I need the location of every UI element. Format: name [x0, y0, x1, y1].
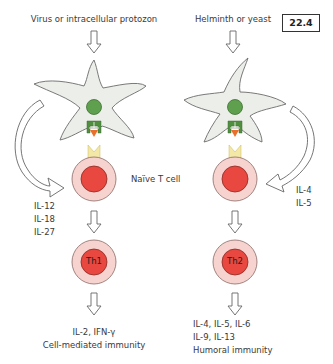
nucleus-left	[87, 100, 102, 115]
stimulus-arrow-right	[226, 31, 240, 53]
th2-immunity-type: Humoral immunity	[193, 344, 272, 356]
stimulus-arrow-left	[87, 31, 101, 53]
output-arrow-left	[87, 293, 101, 315]
nucleus-right	[228, 100, 243, 115]
naive-t-cell-label: Naïve T cell	[131, 173, 180, 185]
cytokine-arrow-left	[15, 100, 64, 197]
tcr-right	[229, 145, 241, 158]
tcr-left	[88, 145, 100, 158]
figure-number: 22.4	[282, 14, 320, 32]
dendritic-cell-right	[184, 58, 286, 142]
mhc-antigen-right	[228, 121, 242, 137]
cytokine-il4: IL-4	[296, 184, 312, 196]
stimulus-label-left: Virus or intracellular protozon	[14, 13, 174, 25]
cytokine-il12: IL-12	[34, 200, 55, 212]
mhc-antigen-left	[87, 121, 101, 137]
cytokine-il5: IL-5	[296, 197, 312, 209]
th1-cytokines-output: IL-2, IFN-γ	[24, 326, 164, 338]
th1-label: Th1	[80, 256, 108, 266]
stimulus-label-right: Helminth or yeast	[180, 13, 286, 25]
naive-t-cell-right	[213, 157, 257, 201]
cytokine-il18: IL-18	[34, 213, 55, 225]
cytokine-il27: IL-27	[34, 226, 55, 238]
th2-label: Th2	[221, 256, 249, 266]
naive-t-cell-left	[72, 157, 116, 201]
th2-cytokines-output-2: IL-9, IL-13	[193, 331, 235, 343]
th1-immunity-type: Cell-mediated immunity	[24, 339, 164, 351]
output-arrow-right	[228, 293, 242, 315]
th2-cytokines-output-1: IL-4, IL-5, IL-6	[193, 318, 251, 330]
differentiation-arrow-right	[228, 211, 242, 233]
differentiation-arrow-left	[87, 211, 101, 233]
cytokine-arrow-right	[266, 106, 314, 192]
